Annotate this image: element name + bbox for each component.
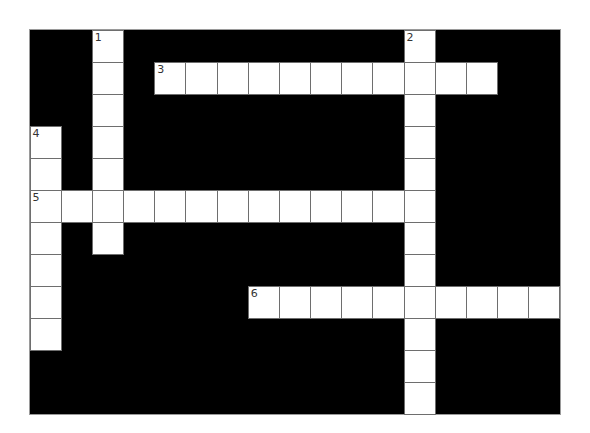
crossword-cell[interactable] <box>435 286 467 319</box>
crossword-cell[interactable] <box>92 94 124 127</box>
crossword-cell[interactable] <box>217 62 249 95</box>
crossword-cell[interactable] <box>497 286 529 319</box>
crossword-cell[interactable]: 2 <box>404 30 436 63</box>
crossword-cell[interactable] <box>310 190 342 223</box>
crossword-cell[interactable] <box>279 286 311 319</box>
crossword-cell[interactable] <box>30 318 62 351</box>
crossword-cell[interactable] <box>404 382 436 415</box>
crossword-cell[interactable] <box>372 190 404 223</box>
crossword-cell[interactable] <box>279 62 311 95</box>
crossword-cell[interactable] <box>404 286 436 319</box>
crossword-cell[interactable] <box>404 350 436 383</box>
crossword-cell[interactable] <box>123 190 155 223</box>
crossword-cell[interactable] <box>30 222 62 255</box>
clue-number: 2 <box>407 32 414 43</box>
crossword-cell[interactable] <box>528 286 560 319</box>
crossword-cell[interactable] <box>404 126 436 159</box>
crossword-cell[interactable] <box>92 190 124 223</box>
crossword-cell[interactable]: 4 <box>30 126 62 159</box>
crossword-cell[interactable] <box>372 62 404 95</box>
crossword-cell[interactable] <box>310 62 342 95</box>
crossword-cell[interactable]: 1 <box>92 30 124 63</box>
crossword-cell[interactable]: 6 <box>248 286 280 319</box>
crossword-cell[interactable]: 3 <box>154 62 186 95</box>
crossword-cell[interactable] <box>279 190 311 223</box>
crossword-cell[interactable] <box>92 126 124 159</box>
crossword-cell[interactable] <box>404 254 436 287</box>
crossword-cell[interactable] <box>341 62 373 95</box>
crossword-cell[interactable] <box>30 254 62 287</box>
crossword-cell[interactable] <box>248 190 280 223</box>
clue-number: 1 <box>95 32 102 43</box>
clue-number: 3 <box>157 64 164 75</box>
crossword-cell[interactable] <box>404 222 436 255</box>
crossword-cell[interactable] <box>92 62 124 95</box>
crossword-cell[interactable] <box>185 62 217 95</box>
crossword-cell[interactable]: 5 <box>30 190 62 223</box>
crossword-cell[interactable] <box>310 286 342 319</box>
clue-number: 5 <box>33 192 40 203</box>
crossword-cell[interactable] <box>30 286 62 319</box>
clue-number: 6 <box>251 288 258 299</box>
crossword-cell[interactable] <box>466 62 498 95</box>
crossword-cell[interactable] <box>341 190 373 223</box>
crossword-grid: 123456 <box>30 30 560 414</box>
crossword-cell[interactable] <box>372 286 404 319</box>
crossword-cell[interactable] <box>404 62 436 95</box>
crossword-cell[interactable] <box>92 158 124 191</box>
crossword-cell[interactable] <box>154 190 186 223</box>
crossword-cell[interactable] <box>404 190 436 223</box>
crossword-cell[interactable] <box>404 158 436 191</box>
crossword-cell[interactable] <box>217 190 249 223</box>
clue-number: 4 <box>33 128 40 139</box>
crossword-cell[interactable] <box>404 94 436 127</box>
crossword-cell[interactable] <box>185 190 217 223</box>
crossword-cell[interactable] <box>61 190 93 223</box>
crossword-cell[interactable] <box>404 318 436 351</box>
crossword-cell[interactable] <box>435 62 467 95</box>
crossword-cell[interactable] <box>248 62 280 95</box>
crossword-cell[interactable] <box>92 222 124 255</box>
crossword-cell[interactable] <box>466 286 498 319</box>
crossword-cell[interactable] <box>30 158 62 191</box>
crossword-cell[interactable] <box>341 286 373 319</box>
